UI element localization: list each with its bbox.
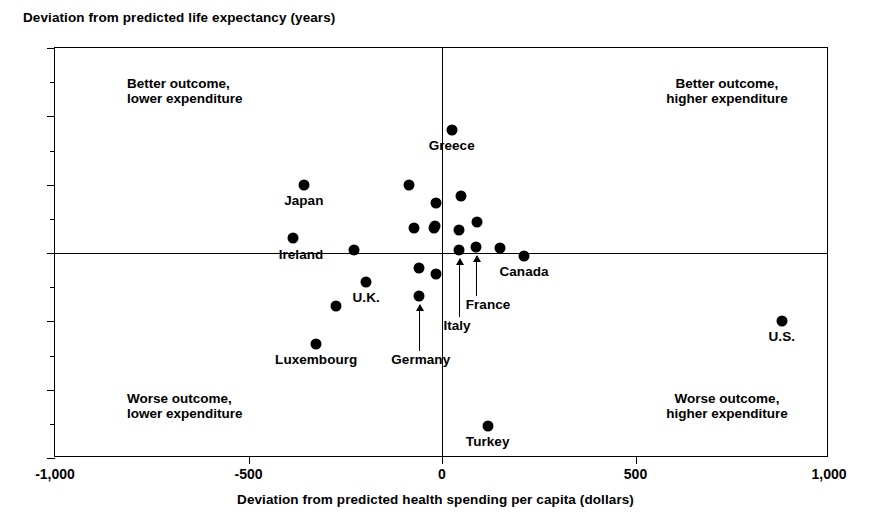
y-minor-tick-3: [50, 151, 55, 152]
point-label-turkey: Turkey: [466, 434, 510, 449]
y-tick-0: [47, 253, 55, 254]
data-point: [331, 300, 342, 311]
x-tick-label--500: -500: [189, 466, 309, 482]
point-label-u-k: U.K.: [353, 290, 380, 305]
y-minor-tick--1: [50, 287, 55, 288]
data-point-canada: [519, 250, 530, 261]
data-point: [471, 216, 482, 227]
point-label-france: France: [466, 297, 511, 312]
zero-line-horizontal: [55, 253, 827, 254]
point-label-italy: Italy: [443, 318, 470, 333]
y-tick-4: [47, 116, 55, 117]
data-point: [495, 243, 506, 254]
y-minor-tick--3: [50, 356, 55, 357]
annotation-line-1: Worse outcome,: [127, 391, 243, 406]
annotation-line-2: lower expenditure: [127, 91, 243, 106]
annotation-better-higher: Better outcome,higher expenditure: [666, 76, 788, 106]
x-tick--500: [249, 456, 250, 464]
y-tick--2: [47, 321, 55, 322]
data-point: [413, 263, 424, 274]
data-point: [430, 269, 441, 280]
x-tick-label--1000: -1,000: [0, 466, 115, 482]
y-tick--4: [47, 390, 55, 391]
plot-area: -6-4-20246-1,000-50005001,000Better outc…: [54, 47, 828, 457]
annotation-line-2: higher expenditure: [666, 91, 788, 106]
y-minor-tick-1: [50, 219, 55, 220]
data-point: [404, 179, 415, 190]
y-tick-6: [47, 48, 55, 49]
scatter-chart-figure: Deviation from predicted life expectancy…: [0, 0, 871, 518]
data-point-japan: [298, 179, 309, 190]
x-tick-label-0: 0: [382, 466, 502, 482]
data-point: [408, 223, 419, 234]
callout-arrow-france: [476, 256, 477, 296]
point-label-luxembourg: Luxembourg: [275, 352, 357, 367]
y-tick--6: [47, 458, 55, 459]
callout-arrow-italy: [459, 259, 460, 317]
data-point: [455, 190, 466, 201]
data-point: [349, 245, 360, 256]
point-label-japan: Japan: [284, 193, 323, 208]
x-tick-label-1000: 1,000: [769, 466, 871, 482]
data-point: [430, 198, 441, 209]
zero-line-vertical: [442, 48, 443, 456]
point-label-canada: Canada: [499, 264, 548, 279]
annotation-line-1: Better outcome,: [666, 76, 788, 91]
annotation-better-lower: Better outcome,lower expenditure: [127, 76, 243, 106]
y-tick-2: [47, 185, 55, 186]
data-point-u-k: [361, 277, 372, 288]
data-point-ireland: [288, 232, 299, 243]
x-axis-title: Deviation from predicted health spending…: [0, 492, 871, 507]
annotation-line-1: Worse outcome,: [666, 391, 788, 406]
point-label-u-s: U.S.: [769, 329, 795, 344]
annotation-line-2: higher expenditure: [666, 406, 788, 421]
point-label-germany: Germany: [391, 352, 450, 367]
point-label-ireland: Ireland: [279, 247, 324, 262]
annotation-worse-higher: Worse outcome,higher expenditure: [666, 391, 788, 421]
data-point-france: [471, 241, 482, 252]
x-tick-label-500: 500: [576, 466, 696, 482]
data-point-italy: [454, 244, 465, 255]
data-point-greece: [446, 125, 457, 136]
y-axis-title: Deviation from predicted life expectancy…: [23, 10, 335, 25]
y-minor-tick--5: [50, 424, 55, 425]
data-point-u-s: [776, 316, 787, 327]
annotation-line-1: Better outcome,: [127, 76, 243, 91]
x-tick-0: [442, 456, 443, 464]
data-point: [454, 224, 465, 235]
y-minor-tick-5: [50, 82, 55, 83]
callout-arrow-germany: [419, 305, 420, 351]
annotation-worse-lower: Worse outcome,lower expenditure: [127, 391, 243, 421]
annotation-line-2: lower expenditure: [127, 406, 243, 421]
data-point-germany: [413, 290, 424, 301]
data-point-turkey: [482, 420, 493, 431]
data-point: [428, 223, 439, 234]
x-tick-500: [636, 456, 637, 464]
data-point-luxembourg: [311, 338, 322, 349]
point-label-greece: Greece: [429, 138, 475, 153]
